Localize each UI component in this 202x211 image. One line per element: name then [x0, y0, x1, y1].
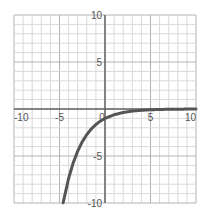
- x-tick-label: 5: [148, 112, 154, 123]
- x-tick-label: -5: [55, 112, 64, 123]
- x-tick-label: 10: [185, 112, 197, 123]
- y-tick-label: -10: [88, 198, 103, 209]
- function-graph: -10-50510105-5-10: [0, 0, 202, 211]
- x-tick-label: -10: [14, 112, 29, 123]
- y-tick-label: 5: [96, 57, 102, 68]
- y-tick-label: 10: [91, 10, 103, 21]
- y-tick-label: -5: [93, 151, 102, 162]
